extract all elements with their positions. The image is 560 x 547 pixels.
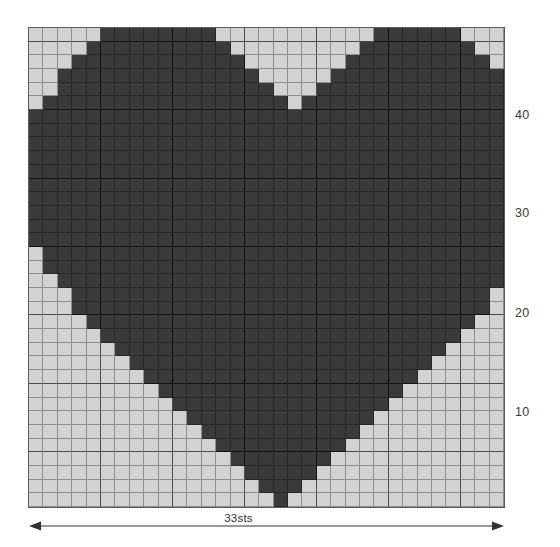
- stitch-cell[interactable]: [259, 274, 273, 288]
- stitch-cell[interactable]: [101, 83, 115, 97]
- stitch-cell[interactable]: [58, 439, 72, 453]
- stitch-cell[interactable]: [144, 274, 158, 288]
- stitch-cell[interactable]: [288, 398, 302, 412]
- stitch-cell[interactable]: [87, 261, 101, 275]
- stitch-cell[interactable]: [58, 165, 72, 179]
- stitch-cell[interactable]: [490, 124, 504, 138]
- stitch-cell[interactable]: [446, 83, 460, 97]
- stitch-cell[interactable]: [259, 411, 273, 425]
- stitch-cell[interactable]: [245, 192, 259, 206]
- stitch-cell[interactable]: [173, 343, 187, 357]
- stitch-cell[interactable]: [101, 165, 115, 179]
- stitch-cell[interactable]: [274, 356, 288, 370]
- stitch-cell[interactable]: [302, 315, 316, 329]
- stitch-cell[interactable]: [159, 55, 173, 69]
- stitch-cell[interactable]: [159, 302, 173, 316]
- stitch-cell[interactable]: [490, 28, 504, 42]
- stitch-cell[interactable]: [245, 69, 259, 83]
- stitch-cell[interactable]: [288, 124, 302, 138]
- stitch-cell[interactable]: [331, 247, 345, 261]
- stitch-cell[interactable]: [288, 151, 302, 165]
- stitch-cell[interactable]: [317, 83, 331, 97]
- stitch-cell[interactable]: [274, 137, 288, 151]
- stitch-cell[interactable]: [331, 274, 345, 288]
- stitch-cell[interactable]: [302, 329, 316, 343]
- stitch-cell[interactable]: [72, 356, 86, 370]
- stitch-cell[interactable]: [231, 124, 245, 138]
- stitch-cell[interactable]: [202, 493, 216, 507]
- stitch-cell[interactable]: [360, 411, 374, 425]
- stitch-cell[interactable]: [418, 28, 432, 42]
- stitch-cell[interactable]: [360, 137, 374, 151]
- stitch-cell[interactable]: [490, 96, 504, 110]
- stitch-cell[interactable]: [346, 274, 360, 288]
- stitch-cell[interactable]: [389, 110, 403, 124]
- stitch-cell[interactable]: [331, 137, 345, 151]
- stitch-cell[interactable]: [173, 302, 187, 316]
- stitch-cell[interactable]: [29, 151, 43, 165]
- stitch-cell[interactable]: [144, 425, 158, 439]
- stitch-cell[interactable]: [446, 124, 460, 138]
- stitch-cell[interactable]: [274, 274, 288, 288]
- stitch-cell[interactable]: [87, 247, 101, 261]
- stitch-cell[interactable]: [446, 110, 460, 124]
- stitch-cell[interactable]: [173, 83, 187, 97]
- stitch-cell[interactable]: [446, 480, 460, 494]
- stitch-cell[interactable]: [288, 137, 302, 151]
- stitch-cell[interactable]: [245, 206, 259, 220]
- stitch-cell[interactable]: [29, 329, 43, 343]
- stitch-cell[interactable]: [389, 124, 403, 138]
- stitch-cell[interactable]: [274, 165, 288, 179]
- stitch-cell[interactable]: [29, 398, 43, 412]
- stitch-cell[interactable]: [346, 288, 360, 302]
- stitch-cell[interactable]: [274, 302, 288, 316]
- stitch-cell[interactable]: [173, 466, 187, 480]
- stitch-cell[interactable]: [475, 370, 489, 384]
- stitch-cell[interactable]: [331, 452, 345, 466]
- stitch-cell[interactable]: [446, 439, 460, 453]
- stitch-cell[interactable]: [360, 480, 374, 494]
- stitch-cell[interactable]: [159, 425, 173, 439]
- stitch-cell[interactable]: [159, 137, 173, 151]
- stitch-cell[interactable]: [115, 206, 129, 220]
- stitch-cell[interactable]: [389, 151, 403, 165]
- stitch-cell[interactable]: [360, 233, 374, 247]
- stitch-cell[interactable]: [159, 480, 173, 494]
- stitch-cell[interactable]: [302, 247, 316, 261]
- stitch-cell[interactable]: [317, 124, 331, 138]
- stitch-cell[interactable]: [130, 110, 144, 124]
- stitch-cell[interactable]: [259, 493, 273, 507]
- stitch-cell[interactable]: [360, 302, 374, 316]
- stitch-cell[interactable]: [245, 439, 259, 453]
- stitch-cell[interactable]: [130, 315, 144, 329]
- stitch-cell[interactable]: [274, 110, 288, 124]
- stitch-cell[interactable]: [101, 28, 115, 42]
- stitch-cell[interactable]: [288, 110, 302, 124]
- stitch-cell[interactable]: [29, 439, 43, 453]
- stitch-cell[interactable]: [389, 206, 403, 220]
- stitch-cell[interactable]: [87, 329, 101, 343]
- stitch-cell[interactable]: [72, 179, 86, 193]
- stitch-cell[interactable]: [187, 384, 201, 398]
- stitch-cell[interactable]: [202, 247, 216, 261]
- stitch-cell[interactable]: [43, 425, 57, 439]
- stitch-cell[interactable]: [72, 274, 86, 288]
- stitch-cell[interactable]: [101, 55, 115, 69]
- stitch-cell[interactable]: [216, 28, 230, 42]
- stitch-cell[interactable]: [130, 411, 144, 425]
- stitch-cell[interactable]: [173, 179, 187, 193]
- stitch-cell[interactable]: [461, 69, 475, 83]
- stitch-cell[interactable]: [302, 370, 316, 384]
- stitch-cell[interactable]: [231, 151, 245, 165]
- stitch-cell[interactable]: [173, 220, 187, 234]
- stitch-cell[interactable]: [216, 411, 230, 425]
- stitch-cell[interactable]: [245, 42, 259, 56]
- stitch-cell[interactable]: [115, 179, 129, 193]
- stitch-cell[interactable]: [418, 96, 432, 110]
- stitch-cell[interactable]: [461, 28, 475, 42]
- stitch-cell[interactable]: [245, 466, 259, 480]
- stitch-cell[interactable]: [461, 343, 475, 357]
- stitch-cell[interactable]: [274, 124, 288, 138]
- stitch-cell[interactable]: [130, 55, 144, 69]
- stitch-cell[interactable]: [475, 179, 489, 193]
